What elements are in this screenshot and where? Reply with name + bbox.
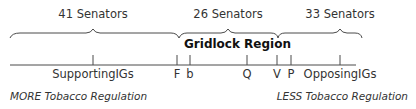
point-label-opposing-igs: OpposingIGs [304, 67, 377, 81]
axis-right-label: LESS Tobacco Regulation [277, 90, 408, 102]
brace-left [10, 29, 179, 38]
point-label-p: P [288, 67, 295, 81]
group-label-gridlock: 26 Senators [193, 7, 262, 21]
point-label-supporting-igs: SupportingIGs [52, 67, 134, 81]
gridlock-diagram: 41 Senators 26 Senators 33 Senators Grid… [0, 0, 416, 109]
point-label-b: b [186, 67, 193, 81]
group-label-supporting: 41 Senators [58, 7, 127, 21]
axis-left-label: MORE Tobacco Regulation [10, 90, 147, 102]
point-label-f: F [174, 67, 181, 81]
point-label-v: V [273, 67, 281, 81]
point-label-q: Q [242, 67, 251, 81]
group-label-opposing: 33 Senators [305, 7, 374, 21]
gridlock-region-label: Gridlock Region [184, 37, 291, 51]
